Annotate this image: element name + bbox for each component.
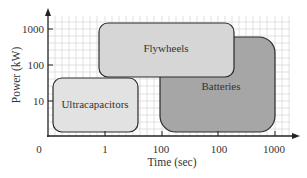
origin-label: 0 — [36, 143, 42, 155]
y-axis-title: Power (kW) — [10, 47, 23, 104]
x-axis-title: Time (sec) — [147, 156, 196, 169]
y-tick-100: 100 — [28, 59, 45, 71]
y-tick-1000: 1000 — [22, 23, 45, 35]
x-tick-1000: 1000 — [263, 143, 286, 155]
region-label-flywheels: Flywheels — [143, 42, 188, 54]
x-tick-100a: 100 — [153, 143, 170, 155]
region-label-ultracapacitors: Ultracapacitors — [61, 98, 128, 110]
ragone-chart: Flywheels Batteries Ultracapacitors 1000… — [0, 0, 307, 178]
y-axis-arrow-icon — [45, 8, 51, 16]
x-tick-1: 1 — [102, 143, 108, 155]
region-label-batteries: Batteries — [201, 80, 240, 92]
x-tick-100b: 100 — [211, 143, 228, 155]
y-tick-10: 10 — [33, 95, 45, 107]
x-axis-arrow-icon — [292, 133, 300, 139]
